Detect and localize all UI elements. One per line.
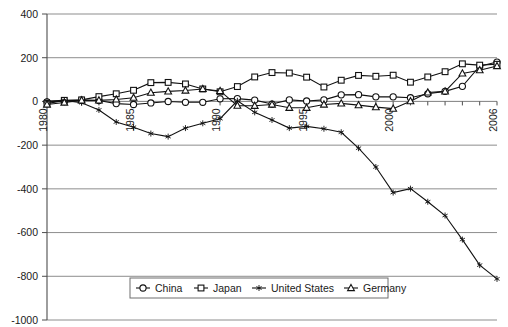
ytick-label: -200	[17, 139, 38, 151]
ytick-label: 0	[32, 95, 38, 107]
xtick-label: 1980	[37, 108, 49, 132]
data-point-marker	[148, 80, 154, 86]
data-point-marker	[338, 77, 344, 83]
data-point-marker	[356, 73, 362, 79]
data-point-marker	[200, 99, 206, 105]
data-point-marker	[165, 98, 171, 104]
data-point-marker	[338, 92, 344, 98]
data-point-marker	[165, 80, 171, 86]
ytick-label: -600	[17, 226, 38, 238]
data-point-marker	[425, 74, 431, 80]
data-point-marker	[459, 61, 465, 67]
data-point-marker	[252, 74, 258, 80]
data-point-marker	[442, 69, 448, 75]
data-point-marker	[304, 74, 310, 80]
data-point-marker	[321, 84, 327, 90]
data-point-marker	[148, 100, 154, 106]
ytick-label: 200	[20, 52, 38, 64]
legend-label-china: China	[155, 282, 183, 294]
series-united-states	[44, 97, 499, 282]
data-point-marker	[269, 70, 275, 76]
ytick-label: -800	[17, 270, 38, 282]
data-point-marker	[131, 87, 137, 93]
data-point-marker	[234, 84, 240, 90]
data-point-marker	[373, 94, 379, 100]
data-point-marker	[198, 285, 204, 291]
data-point-marker	[390, 72, 396, 78]
legend-label-japan: Japan	[213, 282, 242, 294]
ytick-label: -1000	[11, 314, 38, 326]
data-point-marker	[390, 94, 396, 100]
legend: ChinaJapanUnited StatesGermany	[136, 282, 407, 294]
xtick-label: 2000	[383, 108, 395, 132]
xtick-label: 2006	[487, 108, 499, 132]
data-point-marker	[286, 97, 292, 103]
ytick-label: 400	[20, 8, 38, 20]
data-point-marker	[217, 96, 223, 102]
data-point-marker	[140, 285, 146, 291]
chart-container: 4002000-200-400-600-800-1000198019851990…	[0, 0, 508, 327]
series-line	[47, 100, 497, 279]
data-point-marker	[182, 99, 188, 105]
data-point-marker	[130, 101, 136, 107]
data-point-marker	[338, 100, 345, 106]
ytick-label: -400	[17, 183, 38, 195]
line-chart: 4002000-200-400-600-800-1000198019851990…	[0, 0, 508, 327]
data-point-marker	[286, 70, 292, 76]
legend-label-germany: Germany	[363, 282, 407, 294]
data-point-marker	[459, 83, 465, 89]
data-point-marker	[355, 92, 361, 98]
data-point-marker	[408, 79, 414, 85]
data-point-marker	[373, 73, 379, 79]
legend-label-united-states: United States	[271, 282, 334, 294]
